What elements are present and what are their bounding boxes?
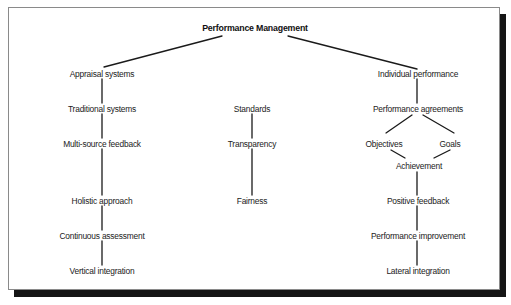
node-performance-improvement: Performance improvement: [371, 231, 465, 241]
node-goals: Goals: [440, 139, 461, 149]
connector-lines: [0, 0, 511, 305]
line-agreements-to-goals: [423, 115, 454, 133]
line-root-to-appraisal: [104, 36, 222, 67]
node-achievement: Achievement: [396, 161, 442, 171]
node-standards: Standards: [234, 104, 270, 114]
node-vertical-integration: Vertical integration: [70, 266, 135, 276]
node-positive-feedback: Positive feedback: [387, 196, 449, 206]
diagram-title: Performance Management: [202, 23, 308, 33]
node-multi-source-feedback: Multi-source feedback: [63, 139, 141, 149]
node-transparency: Transparency: [228, 139, 277, 149]
node-traditional-systems: Traditional systems: [68, 104, 136, 114]
node-appraisal-systems: Appraisal systems: [70, 69, 135, 79]
line-goals-to-achievement: [434, 150, 450, 158]
node-individual-performance: Individual performance: [378, 69, 458, 79]
line-agreements-to-objectives: [386, 115, 412, 133]
node-lateral-integration: Lateral integration: [386, 266, 449, 276]
node-fairness: Fairness: [237, 196, 268, 206]
node-holistic-approach: Holistic approach: [72, 196, 133, 206]
node-objectives: Objectives: [365, 139, 402, 149]
line-root-to-individual: [288, 36, 417, 69]
node-continuous-assessment: Continuous assessment: [59, 231, 144, 241]
node-performance-agreements: Performance agreements: [373, 104, 463, 114]
line-objectives-to-achievement: [391, 150, 405, 158]
